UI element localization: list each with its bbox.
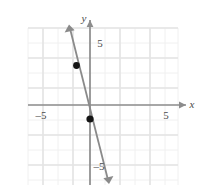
x-axis-right-tick-label: 5	[163, 109, 169, 121]
y-axis-top-tick-label: 5	[97, 37, 103, 49]
y-axis-arrow	[87, 20, 94, 27]
x-axis-arrow	[179, 102, 186, 109]
data-point	[86, 115, 93, 122]
x-axis-left-tick-label: –5	[35, 109, 48, 121]
x-axis-label: x	[189, 98, 195, 110]
y-axis-label: y	[81, 12, 87, 24]
y-axis-bottom-tick-label: –5	[93, 160, 106, 172]
coordinate-plane-figure: –5 5 5 –5 x y	[0, 0, 204, 193]
axes	[28, 20, 186, 185]
data-point	[73, 62, 80, 69]
graph-canvas: –5 5 5 –5 x y	[0, 0, 204, 193]
